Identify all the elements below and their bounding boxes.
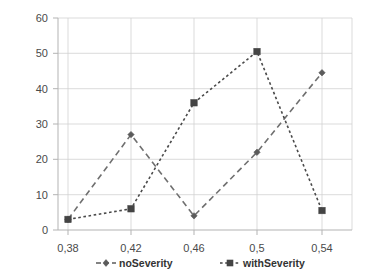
data-point-marker-square[interactable]	[128, 206, 134, 212]
chart-legend: noSeverity withSeverity	[96, 257, 305, 269]
legend-item-withseverity[interactable]: withSeverity	[220, 257, 305, 269]
chart-canvas: 60 50 40 30 20 10 0 0,38 0,42 0,46 0,5 0…	[0, 0, 369, 277]
y-axis-ticks	[53, 18, 58, 230]
x-axis-tick-labels: 0,38 0,42 0,46 0,5 0,54	[57, 242, 332, 254]
y-tick-label: 30	[36, 118, 48, 130]
x-tick-label: 0,5	[249, 242, 264, 254]
x-axis-ticks	[68, 230, 322, 235]
legend-marker-diamond-icon	[103, 260, 109, 267]
legend-marker-square-icon	[227, 260, 233, 266]
data-point-marker-square[interactable]	[254, 48, 260, 54]
x-tick-label: 0,42	[120, 242, 141, 254]
x-tick-label: 0,46	[183, 242, 204, 254]
legend-item-noseverity[interactable]: noSeverity	[96, 257, 173, 269]
y-tick-label: 60	[36, 12, 48, 24]
y-tick-label: 50	[36, 47, 48, 59]
y-tick-label: 20	[36, 153, 48, 165]
y-axis-tick-labels: 60 50 40 30 20 10 0	[36, 12, 48, 236]
legend-label-noseverity: noSeverity	[119, 257, 173, 269]
legend-label-withseverity: withSeverity	[242, 257, 305, 269]
y-tick-label: 0	[42, 224, 48, 236]
x-tick-label: 0,38	[57, 242, 78, 254]
data-point-marker-square[interactable]	[65, 216, 71, 222]
data-point-marker-square[interactable]	[191, 100, 197, 106]
y-tick-label: 10	[36, 189, 48, 201]
line-chart: 60 50 40 30 20 10 0 0,38 0,42 0,46 0,5 0…	[0, 0, 369, 277]
data-point-marker-square[interactable]	[319, 207, 325, 213]
y-tick-label: 40	[36, 83, 48, 95]
x-tick-label: 0,54	[311, 242, 332, 254]
